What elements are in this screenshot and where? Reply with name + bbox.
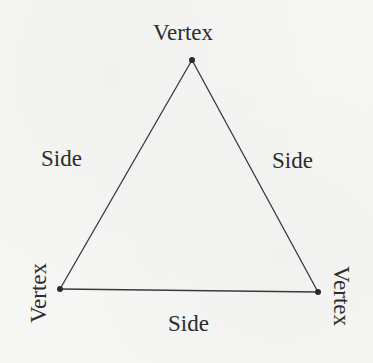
vertex-bottom-left-label: Vertex <box>27 263 50 323</box>
side-bottom-line <box>60 289 318 292</box>
vertex-bottom-left-dot <box>57 286 63 292</box>
side-left-label: Side <box>41 147 82 170</box>
vertex-bottom-right-dot <box>315 289 321 295</box>
vertex-top-label: Vertex <box>153 21 213 44</box>
triangle-diagram <box>0 0 373 363</box>
vertex-bottom-right-label: Vertex <box>330 266 353 326</box>
side-right-line <box>192 60 318 292</box>
side-right-label: Side <box>272 149 313 172</box>
side-bottom-label: Side <box>168 312 209 335</box>
side-left-line <box>60 60 192 289</box>
vertex-top-dot <box>189 57 195 63</box>
